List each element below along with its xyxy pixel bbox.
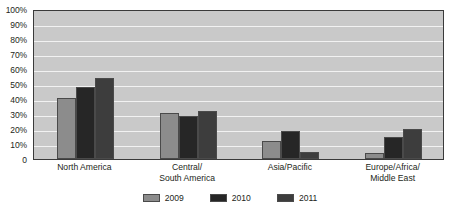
bar [179,116,198,160]
bar [57,98,76,160]
bar [384,137,403,160]
y-axis-tick: 40% [10,95,27,105]
legend-label: 2010 [232,194,251,203]
y-axis-tick: 80% [10,35,27,45]
plot-area [33,10,444,160]
bar [300,152,319,160]
y-axis-tick: 70% [10,50,27,60]
y-axis-tick: 20% [10,125,27,135]
bar [160,113,179,160]
legend-swatch-icon [210,194,227,202]
bar [262,141,281,159]
legend-item[interactable]: 2010 [210,194,251,203]
x-axis: North AmericaCentral/ South AmericaAsia/… [33,162,444,192]
y-axis-tick: 90% [10,20,27,30]
y-axis-tick: 100% [6,5,27,15]
legend-label: 2009 [165,194,184,203]
bars-layer [34,11,443,159]
bar [403,129,422,159]
legend-item[interactable]: 2011 [277,194,317,203]
y-axis-tick: 50% [10,80,27,90]
legend-label: 2011 [299,194,317,203]
x-axis-category-label: Central/ South America [136,162,239,183]
x-axis-category-label: Europe/Africa/ Middle East [341,162,444,183]
x-axis-category-label: North America [33,162,136,173]
bar [95,78,114,159]
bar-chart: 100%90%80%70%60%50%40%30%20%10%0 North A… [0,0,460,209]
y-axis-tick: 60% [10,65,27,75]
y-axis-tick: 30% [10,110,27,120]
y-axis: 100%90%80%70%60%50%40%30%20%10%0 [0,0,30,170]
legend-swatch-icon [143,194,160,202]
legend-swatch-icon [277,194,294,202]
bar [365,153,384,159]
bar [198,111,217,159]
x-axis-category-label: Asia/Pacific [239,162,342,173]
chart-title [0,0,460,2]
bar [76,87,95,159]
y-axis-tick: 0 [22,155,27,165]
legend-item[interactable]: 2009 [143,194,184,203]
y-axis-tick: 10% [10,140,27,150]
bar [281,131,300,160]
chart-legend: 200920102011 [0,191,460,205]
